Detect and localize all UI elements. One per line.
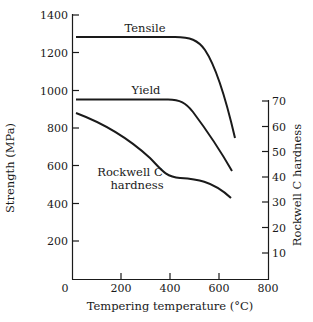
y-tick-label: 1200 bbox=[40, 47, 68, 60]
y-tick-label: 1400 bbox=[40, 9, 68, 22]
y2-tick-label: 30 bbox=[272, 196, 286, 209]
chart-canvas: 1400 1200 1000 800 600 400 200 0 200 400… bbox=[0, 0, 313, 322]
tensile-label: Tensile bbox=[124, 21, 165, 35]
x-tick-label: 200 bbox=[111, 282, 132, 295]
hardness-label-line1: Rockwell C bbox=[97, 165, 163, 179]
x-tick-label: 800 bbox=[258, 282, 279, 295]
y-tick-label: 600 bbox=[47, 160, 68, 173]
y-axis-title: Strength (MPa) bbox=[3, 123, 17, 213]
right-y-ticks bbox=[262, 101, 268, 253]
x-tick-label: 400 bbox=[160, 282, 181, 295]
y2-tick-label: 20 bbox=[272, 222, 286, 235]
x-axis-title: Tempering temperature (°C) bbox=[87, 299, 254, 313]
yield-label: Yield bbox=[131, 83, 162, 97]
y-tick-label: 1000 bbox=[40, 85, 68, 98]
y2-tick-label: 70 bbox=[272, 95, 286, 108]
y2-tick-label: 50 bbox=[272, 146, 286, 159]
y2-tick-label: 40 bbox=[272, 171, 286, 184]
x-tick-label: 0 bbox=[62, 282, 69, 295]
y2-tick-label: 60 bbox=[272, 121, 286, 134]
hardness-label-line2: hardness bbox=[110, 178, 163, 192]
y-tick-label: 200 bbox=[47, 235, 68, 248]
x-tick-label: 600 bbox=[209, 282, 230, 295]
y2-axis-title: Rockwell C hardness bbox=[290, 124, 304, 246]
y-tick-label: 400 bbox=[47, 198, 68, 211]
y-tick-label: 800 bbox=[47, 122, 68, 135]
yield-curve bbox=[76, 100, 232, 172]
x-ticks bbox=[121, 273, 219, 279]
y2-tick-label: 10 bbox=[272, 247, 286, 260]
